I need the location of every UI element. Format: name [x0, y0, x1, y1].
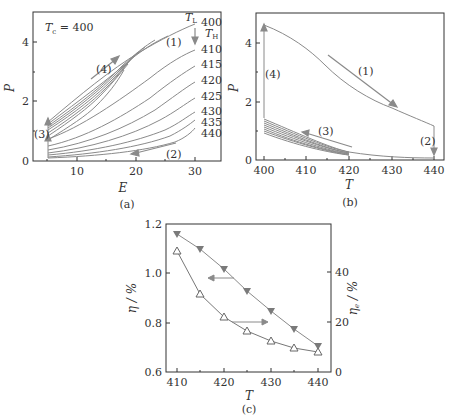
- y-tick: 1.2: [145, 218, 163, 231]
- panel-b: 400 410 420 430 440 0 2 4 T P (b): [227, 13, 445, 209]
- svg-text:415: 415: [201, 58, 222, 71]
- x-tick: 420: [214, 376, 235, 389]
- y-tick: 2: [245, 96, 252, 109]
- y-tick: 0: [22, 155, 29, 168]
- plot-frame-a: [33, 12, 221, 161]
- label-step-2: (2): [420, 135, 436, 148]
- x-tick: 440: [424, 164, 445, 177]
- y-tick: 0.6: [145, 366, 163, 379]
- tl-label: TL: [185, 11, 197, 25]
- cycle-arrows-b: [261, 24, 437, 155]
- caption-c: (c): [242, 403, 257, 416]
- panel-c: 410 420 430 440 0.6 0.8 1.0 1.2 0 20 40 …: [125, 218, 361, 416]
- svg-text:420: 420: [201, 74, 222, 87]
- y-tick: 4: [245, 37, 252, 50]
- label-step-1: (1): [166, 36, 182, 49]
- label-step-4: (4): [96, 63, 112, 76]
- series-eta-e-markers: [173, 247, 322, 355]
- x-axis-label: T: [345, 178, 354, 192]
- x-tick: 440: [308, 376, 329, 389]
- x-tick: 430: [261, 376, 282, 389]
- x-tick: 410: [296, 164, 317, 177]
- y-tick: 0: [245, 154, 252, 167]
- y-axis-label: P: [3, 83, 17, 93]
- y-axis-label: P: [227, 83, 241, 93]
- figure: 10 20 30 0 2 4 E P (a) Tc = 400: [0, 0, 453, 416]
- label-step-4: (4): [265, 68, 281, 81]
- x-tick: 10: [70, 165, 84, 178]
- ticks-b: [256, 43, 434, 160]
- caption-a: (a): [119, 198, 134, 211]
- y2-tick: 20: [335, 316, 349, 329]
- svg-text:425: 425: [201, 90, 222, 103]
- label-step-3: (3): [318, 125, 334, 138]
- x-tick: 400: [254, 164, 275, 177]
- x-tick: 30: [188, 165, 202, 178]
- y-tick: 2: [22, 95, 29, 108]
- y-tick: 4: [22, 36, 29, 49]
- svg-text:400: 400: [201, 16, 222, 29]
- x-tick: 430: [382, 164, 403, 177]
- x-tick: 20: [129, 165, 143, 178]
- caption-b: (b): [342, 196, 358, 209]
- x-axis-label: T: [245, 389, 254, 403]
- label-step-3: (3): [34, 128, 50, 141]
- y2-axis-label: ηe / %: [346, 281, 361, 315]
- y2-tick: 40: [335, 266, 349, 279]
- svg-text:410: 410: [201, 43, 222, 56]
- svg-text:440: 440: [201, 127, 222, 140]
- y-tick: 1.0: [145, 267, 163, 280]
- y-tick: 0.8: [145, 317, 163, 330]
- label-step-2: (2): [166, 148, 182, 161]
- curves-b: [264, 25, 434, 158]
- y-axis-label: η / %: [125, 283, 139, 313]
- th-label: TH: [205, 27, 218, 41]
- x-tick: 420: [339, 164, 360, 177]
- x-tick: 410: [167, 376, 188, 389]
- tc-annotation: Tc = 400: [45, 21, 93, 36]
- series-eta-e-line: [177, 251, 318, 352]
- y2-tick: 0: [335, 366, 342, 379]
- label-step-1: (1): [358, 65, 374, 78]
- x-axis-label: E: [118, 181, 128, 195]
- panel-a: 10 20 30 0 2 4 E P (a) Tc = 400: [3, 11, 222, 211]
